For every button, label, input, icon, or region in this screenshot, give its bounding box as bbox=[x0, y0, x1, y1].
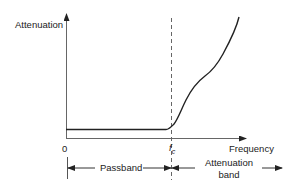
y-axis-label: Attenuation bbox=[15, 20, 63, 30]
cutoff-label-sub: c bbox=[172, 148, 176, 155]
cutoff-frequency-label: fc bbox=[169, 143, 175, 155]
attenuation-band-label-line2: band bbox=[199, 170, 259, 180]
x-axis-label: Frequency bbox=[229, 144, 274, 154]
attenuation-curve bbox=[66, 17, 239, 130]
attenuation-band-label: Attenuation band bbox=[199, 158, 259, 179]
attenuation-diagram: Attenuation Frequency 0 fc Passband Atte… bbox=[0, 0, 287, 190]
attenuation-band-label-line1: Attenuation bbox=[199, 158, 259, 168]
origin-label: 0 bbox=[62, 144, 67, 154]
passband-label: Passband bbox=[100, 163, 142, 173]
